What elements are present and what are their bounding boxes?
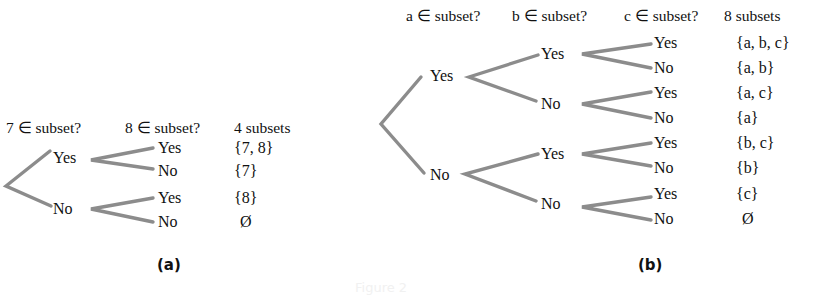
subset: {7} [234,163,257,179]
caption-a: (a) [157,256,181,274]
node-l2: Yes [541,146,564,162]
node-l3: No [654,60,674,76]
header-a: a ∈ subset? [406,8,480,24]
header-7: 7 ∈ subset? [6,120,81,136]
node-l1-no: No [53,201,73,217]
caption-b: (b) [638,256,662,274]
node-l2: No [541,96,561,112]
node-l2: No [158,214,178,230]
node-l2: Yes [158,190,181,206]
node-l2: No [541,196,561,212]
subset: {a, b} [736,60,774,76]
subset: {7, 8} [234,140,273,156]
header-8: 8 ∈ subset? [125,120,200,136]
node-l3: Yes [654,135,677,151]
node-l3: No [654,110,674,126]
node-l2: Yes [158,140,181,156]
header-count: 4 subsets [234,120,290,136]
header-count: 8 subsets [724,8,780,24]
header-c: c ∈ subset? [624,8,698,24]
node-l3: Yes [654,186,677,202]
node-l2: Yes [541,46,564,62]
subset: {b} [736,160,759,176]
subset: {a, b, c} [736,35,790,51]
subset-empty: Ø [742,211,754,227]
header-b: b ∈ subset? [512,8,587,24]
node-l2: No [158,163,178,179]
subset: {8} [234,190,257,206]
node-l3: No [654,160,674,176]
figure-caption: Figure 2 [355,280,407,295]
subset: {a} [736,110,758,126]
tree-branches [0,0,816,298]
subset-empty: Ø [240,214,252,230]
subset: {a, c} [736,85,774,101]
node-l1-yes: Yes [53,150,76,166]
node-l3: Yes [654,35,677,51]
node-l1-no: No [430,167,450,183]
node-l1-yes: Yes [430,68,453,84]
node-l3: Yes [654,85,677,101]
subset: {c} [736,186,758,202]
subset: {b, c} [736,135,774,151]
node-l3: No [654,211,674,227]
